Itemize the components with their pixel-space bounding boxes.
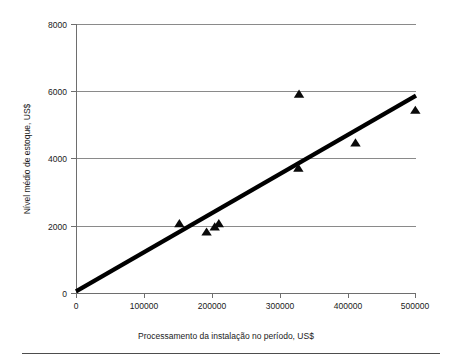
- xtick-label-300000: 300000: [266, 301, 295, 311]
- y-axis-title: Nível médio de estoque, US$: [22, 103, 32, 214]
- xtick-label-500000: 500000: [401, 301, 430, 311]
- xtick-label-400000: 400000: [334, 301, 363, 311]
- scatter-plot-svg: 8000 6000 4000 2000 0 0 100000 200000 30…: [0, 0, 453, 359]
- xtick-label-100000: 100000: [130, 301, 159, 311]
- ytick-label-4000: 4000: [48, 154, 67, 164]
- xtick-label-200000: 200000: [198, 301, 227, 311]
- ytick-label-0: 0: [62, 289, 67, 299]
- ytick-label-2000: 2000: [48, 222, 67, 232]
- x-axis-title: Processamento da instalação no período, …: [138, 331, 314, 341]
- ytick-label-8000: 8000: [48, 20, 67, 30]
- xtick-label-0: 0: [74, 301, 79, 311]
- chart-background: [0, 0, 453, 359]
- ytick-label-6000: 6000: [48, 87, 67, 97]
- chart-figure: 8000 6000 4000 2000 0 0 100000 200000 30…: [0, 0, 453, 359]
